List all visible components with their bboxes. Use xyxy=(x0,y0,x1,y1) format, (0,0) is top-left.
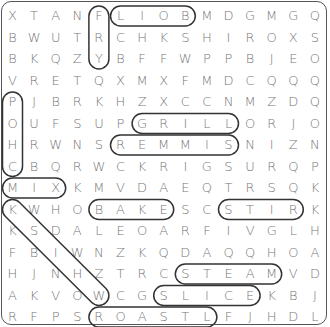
grid-cell[interactable]: I xyxy=(261,134,283,156)
grid-cell[interactable]: H xyxy=(261,242,283,264)
grid-cell[interactable]: F xyxy=(23,306,45,327)
grid-cell[interactable]: K xyxy=(66,177,88,199)
grid-cell[interactable]: E xyxy=(174,177,196,199)
grid-cell[interactable]: P xyxy=(304,156,326,178)
grid-cell[interactable]: K xyxy=(304,177,326,199)
grid-cell[interactable]: R xyxy=(23,70,45,92)
grid-cell[interactable]: K xyxy=(131,199,153,221)
grid-cell[interactable]: F xyxy=(45,113,67,135)
grid-cell[interactable]: C xyxy=(2,156,24,178)
grid-cell[interactable]: Q xyxy=(304,5,326,27)
grid-cell[interactable]: C xyxy=(196,199,218,221)
grid-cell[interactable]: V xyxy=(2,70,24,92)
grid-cell[interactable]: R xyxy=(110,134,132,156)
grid-cell[interactable]: O xyxy=(2,113,24,135)
grid-cell[interactable]: A xyxy=(304,242,326,264)
grid-cell[interactable]: D xyxy=(174,242,196,264)
grid-cell[interactable]: Y xyxy=(88,48,110,70)
grid-cell[interactable]: Z xyxy=(110,242,132,264)
grid-cell[interactable]: T xyxy=(196,263,218,285)
grid-cell[interactable]: G xyxy=(131,113,153,135)
grid-cell[interactable]: O xyxy=(304,48,326,70)
grid-cell[interactable]: H xyxy=(45,199,67,221)
grid-cell[interactable]: X xyxy=(282,27,304,49)
grid-cell[interactable]: B xyxy=(239,48,261,70)
grid-cell[interactable]: T xyxy=(218,177,240,199)
grid-cell[interactable]: R xyxy=(282,199,304,221)
grid-cell[interactable]: N xyxy=(45,263,67,285)
grid-cell[interactable]: M xyxy=(2,177,24,199)
grid-cell[interactable]: S xyxy=(23,220,45,242)
grid-cell[interactable]: L xyxy=(218,113,240,135)
grid-cell[interactable]: S xyxy=(304,27,326,49)
grid-cell[interactable]: P xyxy=(2,91,24,113)
grid-cell[interactable]: I xyxy=(196,134,218,156)
grid-cell[interactable]: I xyxy=(174,113,196,135)
grid-cell[interactable]: A xyxy=(110,199,132,221)
grid-cell[interactable]: R xyxy=(88,306,110,327)
grid-cell[interactable]: E xyxy=(282,48,304,70)
grid-cell[interactable]: F xyxy=(196,220,218,242)
grid-cell[interactable]: S xyxy=(218,199,240,221)
grid-cell[interactable]: V xyxy=(239,220,261,242)
grid-cell[interactable]: J xyxy=(261,48,283,70)
grid-cell[interactable]: B xyxy=(2,48,24,70)
grid-cell[interactable]: I xyxy=(45,242,67,264)
grid-cell[interactable]: M xyxy=(174,134,196,156)
grid-cell[interactable]: B xyxy=(23,242,45,264)
grid-cell[interactable]: Z xyxy=(261,91,283,113)
grid-cell[interactable]: X xyxy=(153,70,175,92)
grid-cell[interactable]: R xyxy=(153,113,175,135)
grid-cell[interactable]: E xyxy=(131,134,153,156)
grid-cell[interactable]: B xyxy=(110,48,132,70)
grid-cell[interactable]: M xyxy=(153,134,175,156)
grid-cell[interactable]: F xyxy=(88,5,110,27)
grid-cell[interactable]: W xyxy=(45,134,67,156)
grid-cell[interactable]: Q xyxy=(304,70,326,92)
grid-cell[interactable]: O xyxy=(66,199,88,221)
grid-cell[interactable]: T xyxy=(110,263,132,285)
grid-cell[interactable]: Z xyxy=(88,263,110,285)
grid-cell[interactable]: L xyxy=(196,113,218,135)
grid-cell[interactable]: S xyxy=(174,263,196,285)
grid-cell[interactable]: T xyxy=(66,70,88,92)
grid-cell[interactable]: K xyxy=(23,285,45,307)
grid-cell[interactable]: I xyxy=(218,220,240,242)
grid-cell[interactable]: P xyxy=(196,48,218,70)
grid-cell[interactable]: A xyxy=(2,285,24,307)
grid-cell[interactable]: A xyxy=(153,177,175,199)
grid-cell[interactable]: R xyxy=(153,156,175,178)
grid-cell[interactable]: L xyxy=(282,220,304,242)
grid-cell[interactable]: E xyxy=(239,285,261,307)
grid-cell[interactable]: N xyxy=(66,5,88,27)
grid-cell[interactable]: S xyxy=(174,27,196,49)
grid-cell[interactable]: C xyxy=(218,285,240,307)
grid-cell[interactable]: S xyxy=(88,134,110,156)
grid-cell[interactable]: O xyxy=(239,113,261,135)
grid-cell[interactable]: W xyxy=(23,27,45,49)
grid-cell[interactable]: R xyxy=(66,91,88,113)
grid-cell[interactable]: Q xyxy=(282,177,304,199)
grid-cell[interactable]: L xyxy=(110,5,132,27)
grid-cell[interactable]: O xyxy=(153,5,175,27)
grid-cell[interactable]: X xyxy=(2,5,24,27)
grid-cell[interactable]: Q xyxy=(239,242,261,264)
grid-cell[interactable]: S xyxy=(261,177,283,199)
grid-cell[interactable]: R xyxy=(2,306,24,327)
grid-cell[interactable]: N xyxy=(239,134,261,156)
grid-cell[interactable]: F xyxy=(131,48,153,70)
grid-cell[interactable]: C xyxy=(174,91,196,113)
grid-cell[interactable]: T xyxy=(66,27,88,49)
grid-cell[interactable]: R xyxy=(174,220,196,242)
grid-cell[interactable]: V xyxy=(110,177,132,199)
grid-cell[interactable]: C xyxy=(153,263,175,285)
grid-cell[interactable]: I xyxy=(174,156,196,178)
grid-cell[interactable]: D xyxy=(282,306,304,327)
grid-cell[interactable]: R xyxy=(66,156,88,178)
grid-cell[interactable]: F xyxy=(2,242,24,264)
grid-cell[interactable]: K xyxy=(2,220,24,242)
grid-cell[interactable]: D xyxy=(131,177,153,199)
grid-cell[interactable]: J xyxy=(23,91,45,113)
grid-cell[interactable]: H xyxy=(304,220,326,242)
grid-cell[interactable]: P xyxy=(110,113,132,135)
